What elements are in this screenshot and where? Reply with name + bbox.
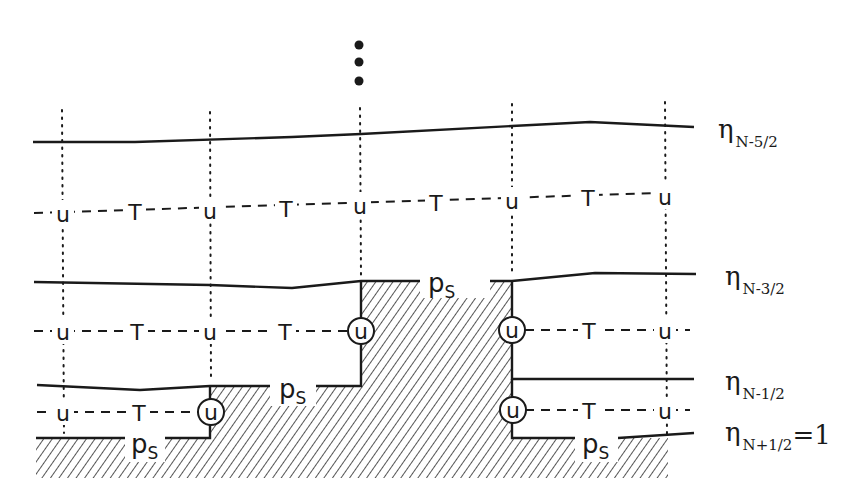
eta-label-n-1-2: ηN-1/2 (725, 366, 785, 403)
node-u: u (56, 320, 70, 345)
node-T: T (428, 191, 443, 216)
boundary-node-u: u (354, 319, 368, 344)
node-T: T (580, 186, 595, 211)
vertical-grid-diagram: u T u T u T u T u u T u T u u T u u T u … (0, 0, 856, 501)
node-u: u (56, 202, 70, 227)
node-T: T (278, 197, 293, 222)
node-T: T (127, 200, 142, 225)
node-T: T (277, 320, 292, 345)
eta-label-n+1-2: ηN+1/2=1 (725, 417, 831, 454)
node-u: u (203, 320, 217, 345)
node-T: T (581, 319, 596, 344)
node-u: u (658, 319, 672, 344)
node-T: T (131, 401, 146, 426)
node-T: T (129, 320, 144, 345)
node-T: T (581, 399, 596, 424)
node-u: u (56, 401, 70, 426)
continuation-dots-icon (355, 41, 364, 86)
eta-level-n-5-2-line (33, 122, 694, 142)
eta-label-n-5-2: ηN-5/2 (718, 114, 778, 151)
eta-label-n-3-2: ηN-3/2 (725, 261, 785, 298)
boundary-node-u: u (506, 398, 520, 423)
boundary-node-u: u (505, 318, 519, 343)
node-u: u (203, 199, 217, 224)
node-u: u (658, 399, 672, 424)
node-u: u (505, 189, 519, 214)
node-u: u (353, 194, 367, 219)
node-u: u (658, 185, 672, 210)
boundary-node-u: u (204, 400, 218, 425)
layer-2-nodes: u T u T u u T u (52, 317, 676, 345)
eta-level-labels: ηN-5/2 ηN-3/2 ηN-1/2 ηN+1/2=1 (718, 114, 831, 454)
layer-1-nodes: u T u T u T u T u (52, 183, 676, 227)
